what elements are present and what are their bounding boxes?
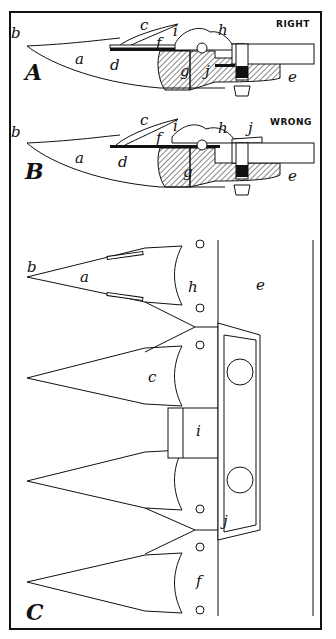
label-e-c: e (256, 276, 265, 294)
label-c-b: c (140, 111, 149, 129)
rivet-hole (196, 606, 204, 614)
label-e-b: e (288, 167, 297, 185)
label-f-c: f (195, 572, 204, 590)
label-g-b: g (183, 163, 193, 181)
label-c-c: c (148, 368, 157, 386)
label-j-b: j (245, 119, 253, 137)
label-c-a: c (140, 16, 149, 34)
label-h-b: h (218, 119, 228, 137)
clip-j-b (232, 137, 262, 143)
nut-a (234, 86, 250, 96)
panel-letter-c: C (26, 599, 44, 625)
label-h-a: h (218, 21, 228, 39)
rivet-hole (196, 304, 204, 312)
label-e-a: e (288, 68, 297, 86)
panel-b: b a c i h j f d g e B WRONG (11, 111, 314, 195)
panel-letter-a: A (23, 59, 42, 85)
panel-letter-b: B (24, 158, 44, 184)
knife-section-4 (27, 553, 182, 613)
rivet-hole (196, 505, 204, 513)
diagram-canvas: b a c i h f d g j e A RIGHT b a c i h j … (0, 0, 336, 639)
label-g-a: g (180, 62, 190, 80)
knife-section-2 (27, 346, 182, 406)
caption-wrong: WRONG (270, 117, 312, 127)
web-1 (145, 302, 218, 352)
panel-c: b a h e c i j f C (26, 240, 313, 625)
label-a-a: a (75, 50, 84, 68)
panel-a: b a c i h f d g j e A RIGHT (11, 16, 314, 96)
label-d-b: d (118, 153, 128, 171)
label-a-c: a (80, 268, 89, 286)
knife-section-1 (27, 246, 182, 305)
label-d-a: d (110, 56, 120, 74)
head-i (168, 408, 218, 458)
label-i-b: i (173, 117, 178, 135)
label-i-a: i (173, 22, 178, 40)
rivet-hole (196, 240, 204, 248)
knife-section-3 (27, 450, 182, 510)
label-b-a: b (11, 24, 21, 42)
label-i-c: i (196, 422, 201, 440)
bolt-hole-1 (227, 359, 253, 385)
web-2 (145, 508, 218, 554)
bolt-hole-2 (227, 467, 253, 493)
caption-right: RIGHT (276, 19, 310, 29)
label-f-b: f (155, 129, 164, 147)
label-b-c: b (27, 258, 37, 276)
label-h-c: h (188, 278, 198, 296)
label-b-b: b (11, 123, 21, 141)
rivet-hole (196, 341, 204, 349)
label-a-b: a (75, 149, 84, 167)
rivet-h-a (197, 43, 207, 53)
rivet-hole (196, 543, 204, 551)
guard-top-a (27, 38, 120, 46)
